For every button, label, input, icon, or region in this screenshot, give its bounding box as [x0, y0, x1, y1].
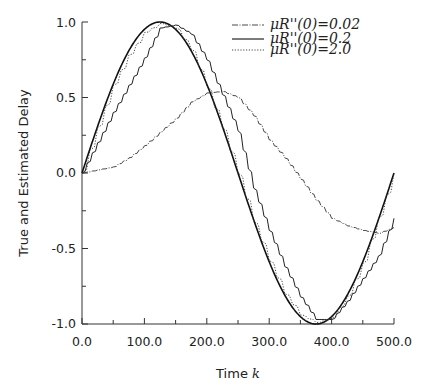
legend-label: μR''(0)=2.0	[270, 41, 351, 57]
series-true-delay	[82, 22, 394, 324]
y-tick-labels: 1.0 0.5 0.0 -0.5 -1.0	[52, 15, 76, 331]
y-tick-label: -1.0	[52, 316, 76, 331]
x-tick-label: 300.0	[251, 334, 287, 349]
y-tick-label: 0.0	[56, 165, 76, 180]
x-tick-label: 500.0	[376, 334, 412, 349]
series-mu-0.02	[82, 91, 394, 233]
plot-series	[82, 22, 394, 324]
y-tick-label: 1.0	[56, 15, 76, 30]
x-axis-title: Time k	[215, 366, 260, 381]
y-tick-label: 0.5	[56, 90, 76, 105]
x-tick-label: 0.0	[72, 334, 92, 349]
x-tick-labels: 0.0 100.0 200.0 300.0 400.0 500.0	[72, 334, 412, 349]
chart-canvas: 1.0 0.5 0.0 -0.5 -1.0 0.0 100.0 200.0 30…	[0, 0, 430, 390]
y-axis-title: True and Estimated Delay	[16, 89, 31, 258]
x-tick-label: 200.0	[189, 334, 225, 349]
y-tick-label: -0.5	[52, 241, 76, 256]
legend: μR''(0)=0.02 μR''(0)=0.2 μR''(0)=2.0	[232, 16, 360, 57]
x-tick-label: 100.0	[127, 334, 163, 349]
x-tick-label: 400.0	[314, 334, 350, 349]
